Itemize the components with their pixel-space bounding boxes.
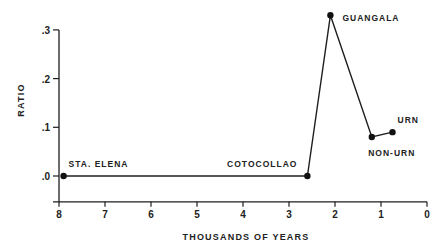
- x-tick-label: 4: [240, 209, 246, 220]
- point-label: URN: [398, 115, 419, 125]
- series-line-ratio: [64, 15, 393, 176]
- point-label: COTOCOLLAO: [227, 159, 297, 169]
- y-tick-label: .3: [42, 25, 51, 36]
- data-point: [304, 173, 310, 179]
- x-tick-label: 0: [424, 209, 430, 220]
- x-tick-label: 2: [332, 209, 338, 220]
- x-tick-label: 1: [378, 209, 384, 220]
- data-point: [60, 173, 66, 179]
- x-tick-label: 6: [148, 209, 154, 220]
- y-tick-label: .0: [42, 171, 51, 182]
- x-axis-title: THOUSANDS OF YEARS: [183, 232, 310, 242]
- data-point: [389, 129, 395, 135]
- x-tick-label: 7: [102, 209, 108, 220]
- data-point: [327, 12, 333, 18]
- x-tick-label: 3: [286, 209, 292, 220]
- y-tick-label: .2: [42, 74, 51, 85]
- point-label: GUANGALA: [342, 13, 399, 23]
- y-tick-label: .1: [42, 122, 51, 133]
- y-axis-title: RATIO: [16, 83, 26, 116]
- x-tick-label: 8: [56, 209, 62, 220]
- point-label: NON-URN: [368, 148, 415, 158]
- x-ticks: 876543210: [56, 202, 430, 220]
- data-point: [369, 134, 375, 140]
- x-tick-label: 5: [194, 209, 200, 220]
- point-labels: STA. ELENACOTOCOLLAOGUANGALANON-URNURN: [69, 13, 419, 169]
- ratio-chart: 876543210 .0.1.2.3 STA. ELENACOTOCOLLAOG…: [0, 0, 443, 250]
- series-layer: [60, 12, 395, 179]
- y-ticks: .0.1.2.3: [42, 25, 59, 182]
- point-label: STA. ELENA: [69, 159, 129, 169]
